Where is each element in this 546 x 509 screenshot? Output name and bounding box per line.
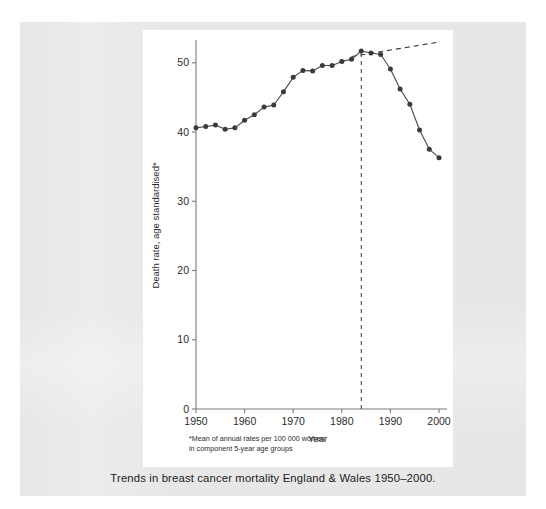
data-point <box>339 59 344 64</box>
data-point <box>320 63 325 68</box>
footnote-line-2: in component 5-year age groups <box>189 444 293 453</box>
y-tick-label: 20 <box>177 264 189 276</box>
chart-footnote: *Mean of annual rates per 100 000 women … <box>189 434 439 453</box>
y-tick-label: 40 <box>177 126 189 138</box>
data-point <box>417 127 422 132</box>
data-point <box>291 75 296 80</box>
data-point <box>388 67 393 72</box>
data-point <box>223 127 228 132</box>
data-point <box>398 87 403 92</box>
data-point <box>330 63 335 68</box>
y-tick-label: 50 <box>177 56 189 68</box>
series-line <box>196 51 439 158</box>
data-point <box>378 52 383 57</box>
data-point <box>281 89 286 94</box>
figure-page: 01020304050195019601970198019902000YearD… <box>0 0 546 509</box>
y-axis-title: Death rate, age standardised* <box>150 162 161 289</box>
x-tick-label: 2000 <box>427 415 451 427</box>
data-point <box>213 123 218 128</box>
y-tick-label: 30 <box>177 195 189 207</box>
data-point <box>271 103 276 108</box>
x-tick-label: 1970 <box>282 415 306 427</box>
trend-line <box>352 42 439 57</box>
x-tick-label: 1950 <box>184 415 208 427</box>
data-point <box>427 147 432 152</box>
data-point <box>407 102 412 107</box>
x-tick-label: 1990 <box>379 415 403 427</box>
data-point <box>203 124 208 129</box>
figure-caption: Trends in breast cancer mortality Englan… <box>20 472 526 484</box>
line-chart: 01020304050195019601970198019902000YearD… <box>143 30 453 467</box>
footnote-line-1: Mean of annual rates per 100 000 women <box>192 434 325 443</box>
data-point <box>349 57 354 62</box>
data-point <box>359 49 364 54</box>
y-tick-label: 10 <box>177 333 189 345</box>
data-point <box>252 112 257 117</box>
x-tick-label: 1960 <box>233 415 257 427</box>
x-tick-label: 1980 <box>330 415 354 427</box>
y-tick-label: 0 <box>183 403 189 415</box>
data-point <box>437 155 442 160</box>
data-point <box>232 125 237 130</box>
data-point <box>194 125 199 130</box>
data-point <box>242 118 247 123</box>
data-point <box>300 68 305 73</box>
figure-card: 01020304050195019601970198019902000YearD… <box>143 30 453 467</box>
data-point <box>310 69 315 74</box>
data-point <box>262 105 267 110</box>
